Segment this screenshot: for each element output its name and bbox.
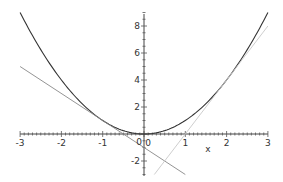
x-tick-label: 2 — [224, 138, 230, 148]
tangent-line — [20, 67, 185, 175]
origin-label-y: 0 — [136, 137, 142, 147]
y-tick-label: -2 — [131, 156, 140, 166]
y-tick-label: 8 — [134, 21, 140, 31]
origin-label-x: 0 — [145, 138, 151, 148]
axes — [20, 13, 268, 177]
x-tick-label: -1 — [98, 138, 107, 148]
y-tick-label: 4 — [134, 75, 140, 85]
x-tick-label: 3 — [265, 138, 271, 148]
x-tick-label: -3 — [16, 138, 25, 148]
plot-area: -3-2-112300-22468x — [0, 0, 283, 182]
tangent-line — [154, 26, 268, 175]
y-tick-label: 6 — [134, 48, 140, 58]
x-axis-label: x — [205, 144, 211, 154]
y-tick-label: 2 — [134, 102, 140, 112]
x-tick-label: 1 — [182, 138, 188, 148]
x-tick-label: -2 — [57, 138, 66, 148]
